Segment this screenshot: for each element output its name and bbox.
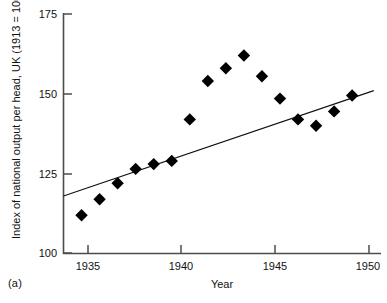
data-point bbox=[166, 155, 178, 167]
data-point bbox=[202, 75, 214, 87]
x-axis-title: Year bbox=[211, 278, 234, 290]
x-tick-label-1940: 1940 bbox=[169, 260, 193, 272]
data-point bbox=[93, 193, 105, 205]
data-point bbox=[274, 92, 286, 104]
y-tick-label-175: 175 bbox=[39, 8, 57, 20]
x-axis-ticks bbox=[88, 245, 369, 253]
data-point bbox=[75, 209, 87, 221]
data-point bbox=[238, 49, 250, 61]
data-point bbox=[328, 105, 340, 117]
trend-line bbox=[64, 91, 374, 196]
y-axis-ticks bbox=[63, 14, 72, 253]
data-point-group bbox=[75, 49, 358, 221]
scatter-chart: Index of national output per head, UK (1… bbox=[0, 0, 387, 303]
y-tick-label-100: 100 bbox=[39, 247, 57, 259]
x-tick-label-1945: 1945 bbox=[263, 260, 287, 272]
data-point bbox=[147, 158, 159, 170]
data-point bbox=[184, 113, 196, 125]
data-point bbox=[256, 70, 268, 82]
x-tick-label-1950: 1950 bbox=[356, 260, 380, 272]
y-tick-label-125: 125 bbox=[39, 168, 57, 180]
data-point bbox=[310, 120, 322, 132]
y-axis-title: Index of national output per head, UK (1… bbox=[10, 0, 22, 239]
y-tick-label-150: 150 bbox=[39, 88, 57, 100]
panel-label: (a) bbox=[8, 277, 22, 289]
x-tick-label-1935: 1935 bbox=[76, 260, 100, 272]
data-point bbox=[220, 62, 232, 74]
figure-panel-a: Index of national output per head, UK (1… bbox=[0, 0, 387, 303]
